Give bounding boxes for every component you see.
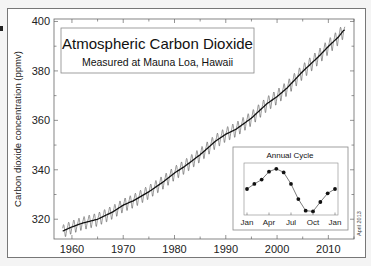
x-tick-label: 2010 bbox=[316, 243, 340, 255]
inset-point bbox=[304, 209, 308, 213]
inset-point bbox=[326, 191, 330, 195]
inset-x-tick-label: Oct bbox=[307, 218, 320, 227]
inset-x-tick-label: Jan bbox=[329, 218, 342, 227]
inset-x-tick-label: Apr bbox=[263, 218, 276, 227]
inset-point bbox=[260, 178, 264, 182]
chart-title: Atmospheric Carbon Dioxide bbox=[62, 35, 253, 52]
x-tick-label: 2000 bbox=[265, 243, 289, 255]
inset-point bbox=[282, 170, 286, 174]
y-tick-label: 340 bbox=[32, 164, 50, 176]
inset-point bbox=[318, 200, 322, 204]
chart-subtitle: Measured at Mauna Loa, Hawaii bbox=[82, 56, 233, 68]
inset-point bbox=[296, 197, 300, 201]
inset-point bbox=[267, 170, 271, 174]
x-tick-label: 1960 bbox=[60, 243, 84, 255]
inset-title: Annual Cycle bbox=[266, 151, 314, 160]
co2-chart: 196019701980199020002010320340360380400 … bbox=[0, 0, 371, 266]
inset-x-tick-label: Jan bbox=[241, 218, 254, 227]
x-tick-label: 1970 bbox=[111, 243, 135, 255]
y-tick-label: 380 bbox=[32, 65, 50, 77]
y-tick-label: 400 bbox=[32, 15, 50, 27]
x-tick-label: 1980 bbox=[162, 243, 186, 255]
x-tick-label: 1990 bbox=[214, 243, 238, 255]
date-stamp: April 2013 bbox=[356, 211, 362, 236]
y-tick-label: 360 bbox=[32, 114, 50, 126]
y-axis-label: Carbon dioxide concentration (ppmv) bbox=[12, 51, 23, 207]
inset-point bbox=[274, 167, 278, 171]
inset-point bbox=[289, 182, 293, 186]
y-tick-label: 320 bbox=[32, 213, 50, 225]
inset-point bbox=[252, 182, 256, 186]
inset-x-tick-label: Jul bbox=[286, 218, 296, 227]
title-box: Atmospheric Carbon Dioxide Measured at M… bbox=[61, 28, 254, 73]
inset-point bbox=[245, 187, 249, 191]
inset-point bbox=[333, 187, 337, 191]
annual-cycle-inset: Annual Cycle JanAprJulOctJan bbox=[233, 147, 348, 230]
